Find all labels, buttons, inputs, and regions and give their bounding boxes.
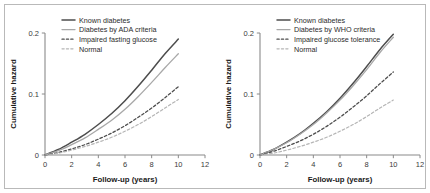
y-tick-label: 0	[35, 151, 39, 160]
legend-label: Normal	[79, 45, 103, 54]
y-tick-label: 0.1	[244, 90, 254, 99]
x-tick-label: 2	[285, 160, 289, 169]
legend-label: Known diabetes	[79, 16, 131, 25]
x-tick-label: 10	[389, 160, 397, 169]
y-tick-label: 0.1	[29, 90, 39, 99]
x-axis-title: Follow-up (years)	[308, 175, 373, 184]
x-tick-label: 8	[150, 160, 154, 169]
y-axis-title: Cumulative hazard	[224, 59, 233, 129]
x-tick-label: 12	[416, 160, 424, 169]
y-tick-label: 0	[250, 151, 254, 160]
legend-label: Diabetes by ADA criteria	[79, 25, 157, 34]
x-tick-label: 8	[365, 160, 369, 169]
legend-label: Known diabetes	[294, 16, 346, 25]
x-tick-label: 2	[70, 160, 74, 169]
plot-area-left: 02468101200.10.2Follow-up (years)Cumulat…	[0, 0, 215, 193]
legend-label: Impaired fasting glucose	[79, 35, 157, 44]
x-tick-label: 4	[311, 160, 315, 169]
x-tick-label: 10	[174, 160, 182, 169]
series-line	[45, 54, 178, 155]
figure-container: 02468101200.10.2Follow-up (years)Cumulat…	[0, 0, 430, 193]
y-tick-label: 0.2	[29, 29, 39, 38]
x-tick-label: 0	[258, 160, 262, 169]
x-axis-title: Follow-up (years)	[93, 175, 158, 184]
x-tick-label: 12	[201, 160, 209, 169]
y-tick-label: 0.2	[244, 29, 254, 38]
legend-label: Impaired glucose tolerance	[294, 35, 380, 44]
y-axis-title: Cumulative hazard	[9, 59, 18, 129]
plot-area-right: 02468101200.10.2Follow-up (years)Cumulat…	[215, 0, 430, 193]
x-tick-label: 4	[96, 160, 100, 169]
legend-label: Diabetes by WHO criteria	[294, 25, 375, 34]
x-tick-label: 6	[338, 160, 342, 169]
chart-panel-left: 02468101200.10.2Follow-up (years)Cumulat…	[0, 0, 215, 193]
x-tick-label: 6	[123, 160, 127, 169]
x-tick-label: 0	[43, 160, 47, 169]
legend-label: Normal	[294, 45, 318, 54]
chart-panel-right: 02468101200.10.2Follow-up (years)Cumulat…	[215, 0, 430, 193]
